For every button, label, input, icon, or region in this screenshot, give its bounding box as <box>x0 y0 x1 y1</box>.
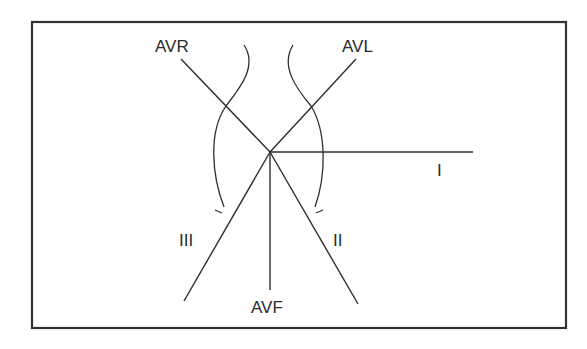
lead-avl-axis <box>270 59 356 152</box>
lead-avl-label: AVL <box>342 37 373 56</box>
diagram-frame <box>32 22 566 328</box>
lead-avf-label: AVF <box>251 298 283 317</box>
lead-iii-axis <box>184 152 270 301</box>
lead-ii-axis <box>270 152 358 304</box>
lead-iii-label: III <box>179 231 193 250</box>
lead-avr-label: AVR <box>155 37 189 56</box>
lead-i-label: I <box>437 161 442 180</box>
left-curved-arrow <box>214 45 249 207</box>
lead-avr-axis <box>181 59 270 152</box>
lead-ii-label: II <box>333 231 342 250</box>
right-arrow-tick-icon <box>316 210 323 213</box>
hexaxial-diagram: AVR AVL I II III AVF <box>0 0 587 349</box>
left-arrow-tick-icon <box>215 210 222 213</box>
